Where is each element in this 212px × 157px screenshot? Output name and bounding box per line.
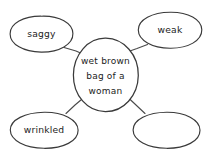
- concept-map-canvas: saggy weak wet brown bag of a woman wrin…: [0, 0, 212, 157]
- center-bubble-line-2: bag of a: [86, 71, 124, 81]
- center-bubble-line-3: woman: [89, 86, 123, 96]
- bubble-saggy-label: saggy: [27, 28, 56, 39]
- bubble-wrinkled-label: wrinkled: [24, 124, 65, 135]
- bubble-saggy[interactable]: saggy: [10, 16, 73, 52]
- center-bubble[interactable]: wet brown bag of a woman: [73, 38, 138, 112]
- bubble-wrinkled[interactable]: wrinkled: [10, 112, 78, 148]
- bubble-weak-label: weak: [158, 24, 183, 35]
- center-bubble-line-1: wet brown: [81, 56, 130, 66]
- concept-map-diagram: saggy weak wet brown bag of a woman wrin…: [0, 0, 212, 157]
- bubble-empty-outline: [133, 112, 200, 148]
- bubble-empty[interactable]: [133, 112, 200, 148]
- bubble-weak[interactable]: weak: [138, 12, 202, 48]
